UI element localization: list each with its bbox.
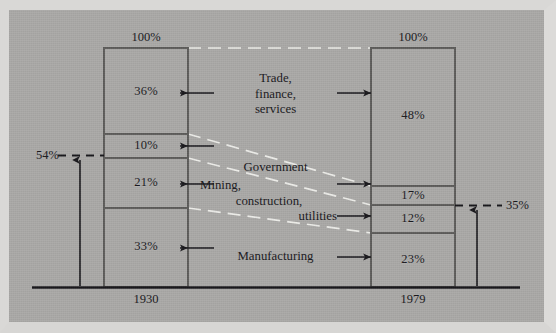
category-label-manufacturing: Manufacturing bbox=[214, 249, 337, 265]
xtick-1979: 1979 bbox=[371, 292, 455, 307]
value-1979-trade: 48% bbox=[371, 108, 455, 123]
value-1979-manufacturing: 23% bbox=[371, 252, 455, 267]
bracket-54 bbox=[58, 156, 104, 287]
value-1979-mining: 12% bbox=[371, 211, 455, 226]
total-1979: 100% bbox=[371, 30, 455, 45]
value-1930-manufacturing: 33% bbox=[104, 239, 188, 254]
bracket-35 bbox=[455, 206, 502, 287]
category-label-manufacturing-line-1: Manufacturing bbox=[214, 249, 337, 265]
total-1930: 100% bbox=[104, 30, 188, 45]
category-label-mining-line-2: construction, bbox=[196, 194, 342, 210]
figure-canvas: 36% 10% 21% 33% 48% 17% 12% 23% 100% 100… bbox=[0, 0, 556, 333]
value-1930-mining: 21% bbox=[104, 175, 188, 190]
category-label-trade-line-1: Trade, bbox=[214, 71, 337, 87]
category-label-government-line-1: Government bbox=[214, 160, 337, 176]
category-label-trade-line-3: services bbox=[214, 102, 337, 118]
value-1930-trade: 36% bbox=[104, 84, 188, 99]
value-1979-government: 17% bbox=[371, 188, 455, 203]
category-label-trade-line-2: finance, bbox=[214, 87, 337, 103]
category-label-trade: Trade, finance, services bbox=[214, 71, 337, 118]
xtick-1930: 1930 bbox=[104, 292, 188, 307]
category-label-mining-line-1: Mining, bbox=[196, 178, 342, 194]
bracket-label-35: 35% bbox=[506, 198, 546, 213]
pointer-arrows-right bbox=[337, 93, 371, 257]
bracket-label-54: 54% bbox=[25, 148, 59, 163]
category-label-government: Government bbox=[214, 160, 337, 176]
value-1930-government: 10% bbox=[104, 138, 188, 153]
category-label-mining: Mining, construction, utilities bbox=[196, 178, 342, 225]
category-label-mining-line-3: utilities bbox=[196, 209, 342, 225]
